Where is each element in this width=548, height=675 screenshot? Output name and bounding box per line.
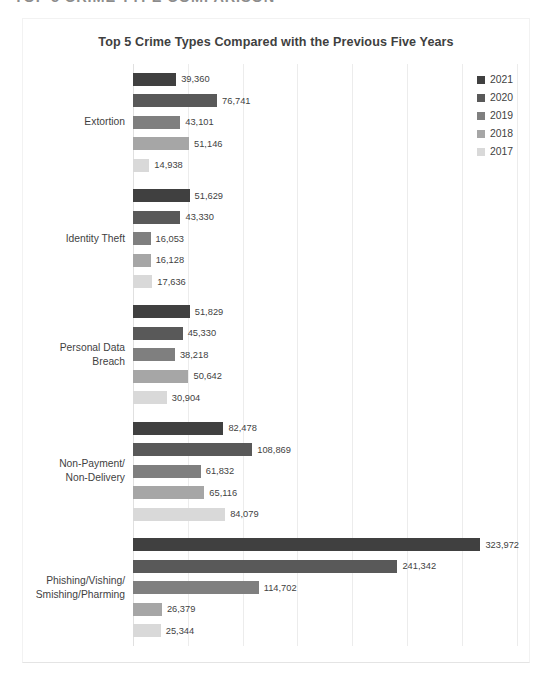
bar[interactable] xyxy=(133,443,252,456)
chart-legend: 20212020201920182017 xyxy=(477,74,513,157)
bar-row: 51,829 xyxy=(133,303,519,320)
bar-value-label: 17,636 xyxy=(157,277,185,287)
bar-value-label: 30,904 xyxy=(172,393,200,403)
bar-value-label: 43,330 xyxy=(185,212,213,222)
bar-value-label: 61,832 xyxy=(206,466,234,476)
legend-label: 2017 xyxy=(490,146,513,157)
bar[interactable] xyxy=(133,73,176,86)
bar-row: 25,344 xyxy=(133,622,519,639)
bar-row: 84,079 xyxy=(133,506,519,523)
bar[interactable] xyxy=(133,211,180,224)
bar-row: 114,702 xyxy=(133,579,519,596)
bar-value-label: 26,379 xyxy=(167,604,195,614)
bar-row: 39,360 xyxy=(133,71,519,88)
legend-label: 2018 xyxy=(490,128,513,139)
bar[interactable] xyxy=(133,159,149,172)
bar-value-label: 14,938 xyxy=(154,160,182,170)
bar-value-label: 108,869 xyxy=(257,445,291,455)
bar-value-label: 16,053 xyxy=(156,234,184,244)
bar[interactable] xyxy=(133,327,183,340)
bar[interactable] xyxy=(133,305,190,318)
category-label: Personal Data Breach xyxy=(21,341,125,369)
bar-row: 16,053 xyxy=(133,230,519,247)
legend-swatch-icon xyxy=(477,112,485,120)
legend-swatch-icon xyxy=(477,76,485,84)
category-label: Identity Theft xyxy=(21,232,125,246)
bar-value-label: 50,642 xyxy=(193,371,221,381)
bar[interactable] xyxy=(133,94,217,107)
bar[interactable] xyxy=(133,603,162,616)
bar-value-label: 39,360 xyxy=(181,74,209,84)
legend-swatch-icon xyxy=(477,148,485,156)
bar[interactable] xyxy=(133,486,204,499)
category-label: Extortion xyxy=(21,115,125,129)
bar-row: 65,116 xyxy=(133,484,519,501)
bar-row: 82,478 xyxy=(133,420,519,437)
legend-swatch-icon xyxy=(477,94,485,102)
legend-swatch-icon xyxy=(477,130,485,138)
category-label: Phishing/Vishing/ Smishing/Pharming xyxy=(21,574,125,602)
bar-row: 241,342 xyxy=(133,558,519,575)
legend-item-2018[interactable]: 2018 xyxy=(477,128,513,139)
chart-container: Top 5 Crime Types Compared with the Prev… xyxy=(22,18,530,663)
bar[interactable] xyxy=(133,189,190,202)
bar[interactable] xyxy=(133,624,161,637)
bar[interactable] xyxy=(133,348,175,361)
bar[interactable] xyxy=(133,370,188,383)
bar-value-label: 114,702 xyxy=(264,583,297,593)
bar-value-label: 84,079 xyxy=(230,509,258,519)
bar-row: 30,904 xyxy=(133,389,519,406)
bar[interactable] xyxy=(133,560,397,573)
bar-row: 51,629 xyxy=(133,187,519,204)
bar-value-label: 76,741 xyxy=(222,96,250,106)
page-root: TOP 5 CRIME TYPE COMPARISON Top 5 Crime … xyxy=(0,0,548,675)
document-heading: TOP 5 CRIME TYPE COMPARISON xyxy=(14,0,434,5)
bar-group: Personal Data Breach51,82945,33038,21850… xyxy=(133,297,519,413)
bar-row: 51,146 xyxy=(133,135,519,152)
bar[interactable] xyxy=(133,538,480,551)
bar-row: 43,330 xyxy=(133,209,519,226)
bar-group: Non-Payment/ Non-Delivery82,478108,86961… xyxy=(133,413,519,529)
bar-row: 61,832 xyxy=(133,463,519,480)
bar[interactable] xyxy=(133,508,225,521)
bar-value-label: 82,478 xyxy=(228,423,256,433)
legend-item-2017[interactable]: 2017 xyxy=(477,146,513,157)
bar[interactable] xyxy=(133,391,167,404)
bar-value-label: 51,629 xyxy=(195,191,223,201)
legend-label: 2019 xyxy=(490,110,513,121)
bar-value-label: 323,972 xyxy=(485,540,519,550)
bar-row: 45,330 xyxy=(133,325,519,342)
legend-item-2019[interactable]: 2019 xyxy=(477,110,513,121)
bar-value-label: 45,330 xyxy=(188,328,216,338)
bar[interactable] xyxy=(133,232,151,245)
bar-row: 50,642 xyxy=(133,368,519,385)
bar-group: Phishing/Vishing/ Smishing/Pharming323,9… xyxy=(133,530,519,646)
bar[interactable] xyxy=(133,465,201,478)
bar[interactable] xyxy=(133,116,180,129)
legend-item-2020[interactable]: 2020 xyxy=(477,92,513,103)
legend-label: 2021 xyxy=(490,74,513,85)
bar-row: 76,741 xyxy=(133,92,519,109)
legend-label: 2020 xyxy=(490,92,513,103)
bar-value-label: 241,342 xyxy=(402,561,436,571)
plot-area: Extortion39,36076,74143,10151,14614,938I… xyxy=(133,64,519,646)
bar[interactable] xyxy=(133,254,151,267)
bar-group: Identity Theft51,62943,33016,05316,12817… xyxy=(133,180,519,296)
bar-value-label: 38,218 xyxy=(180,350,208,360)
bar[interactable] xyxy=(133,275,152,288)
chart-title: Top 5 Crime Types Compared with the Prev… xyxy=(23,35,529,49)
bar[interactable] xyxy=(133,581,259,594)
bar-row: 16,128 xyxy=(133,252,519,269)
bar-row: 17,636 xyxy=(133,273,519,290)
bar-row: 323,972 xyxy=(133,536,519,553)
bar-value-label: 16,128 xyxy=(156,255,184,265)
bar-value-label: 25,344 xyxy=(166,626,194,636)
bar-value-label: 51,829 xyxy=(195,307,223,317)
bar[interactable] xyxy=(133,422,223,435)
bar-groups: Extortion39,36076,74143,10151,14614,938I… xyxy=(133,64,519,646)
bar-value-label: 51,146 xyxy=(194,139,222,149)
bar[interactable] xyxy=(133,137,189,150)
legend-item-2021[interactable]: 2021 xyxy=(477,74,513,85)
bar-value-label: 43,101 xyxy=(185,117,213,127)
bar-row: 26,379 xyxy=(133,601,519,618)
